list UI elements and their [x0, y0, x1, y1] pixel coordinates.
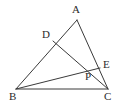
segment-dc	[53, 41, 108, 89]
segments-group	[16, 20, 108, 89]
point-label-D: D	[42, 29, 50, 40]
geometry-figure: A B C D E P	[0, 0, 123, 111]
point-label-E: E	[103, 59, 110, 70]
point-label-C: C	[104, 91, 111, 102]
point-label-P: P	[85, 71, 91, 82]
segment-ac	[77, 20, 108, 89]
point-label-A: A	[72, 4, 80, 15]
point-label-B: B	[9, 91, 16, 102]
